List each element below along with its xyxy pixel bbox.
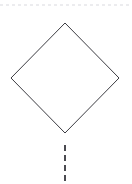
diagram-canvas [0, 0, 132, 184]
flowchart-svg [0, 0, 132, 184]
